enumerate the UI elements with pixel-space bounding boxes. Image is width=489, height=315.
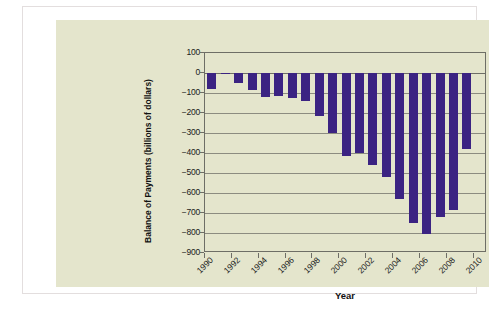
x-tick-label: 2002 [351, 255, 376, 280]
y-tick-label: −300 [160, 128, 200, 137]
x-axis-tick-labels: 1990199219941996199820002002200420062008… [204, 253, 486, 293]
x-tick-label: 1996 [270, 255, 295, 280]
bar-series [205, 53, 485, 251]
x-tick-label: 2004 [378, 255, 403, 280]
figure-border: Balance of Payments (billions of dollars… [22, 6, 477, 294]
y-tick-mark [199, 252, 204, 253]
bar [449, 73, 458, 210]
x-tick-label: 1992 [216, 255, 241, 280]
bar [261, 73, 270, 97]
y-tick-mark [199, 132, 204, 133]
y-tick-label: −100 [160, 88, 200, 97]
y-tick-label: 100 [160, 48, 200, 57]
y-tick-mark [199, 172, 204, 173]
bar [315, 73, 324, 116]
y-tick-label: −400 [160, 148, 200, 157]
bar [382, 73, 391, 177]
y-axis-title: Balance of Payments (billions of dollars… [143, 61, 153, 261]
bar [301, 73, 310, 101]
x-tick-label: 2008 [431, 255, 456, 280]
bar [462, 73, 471, 149]
y-tick-mark [199, 212, 204, 213]
y-tick-label: −700 [160, 208, 200, 217]
y-tick-mark [199, 152, 204, 153]
x-axis-title: Year [204, 290, 486, 301]
y-tick-mark [199, 92, 204, 93]
x-tick-label: 2000 [324, 255, 349, 280]
y-tick-label: −200 [160, 108, 200, 117]
y-tick-mark [199, 192, 204, 193]
bar [422, 73, 431, 234]
y-tick-label: −800 [160, 228, 200, 237]
x-tick-label: 1998 [297, 255, 322, 280]
y-tick-mark [199, 232, 204, 233]
y-tick-mark [199, 72, 204, 73]
bar [355, 73, 364, 153]
bar [395, 73, 404, 199]
y-tick-mark [199, 52, 204, 53]
bar [234, 73, 243, 83]
plot-area [204, 52, 486, 252]
bar [409, 73, 418, 223]
y-tick-label: −500 [160, 168, 200, 177]
y-axis-tick-labels: 1000−100−200−300−400−500−600−700−800−900 [156, 52, 200, 252]
bar [207, 73, 216, 89]
y-tick-mark [199, 112, 204, 113]
y-tick-label: 0 [160, 68, 200, 77]
bar [436, 73, 445, 217]
bar [342, 73, 351, 156]
y-tick-label: −900 [160, 248, 200, 257]
bar [274, 73, 283, 96]
chart-canvas: Balance of Payments (billions of dollars… [56, 20, 489, 287]
bar [328, 73, 337, 133]
bar [288, 73, 297, 98]
x-tick-label: 1990 [190, 255, 215, 280]
x-tick-label: 2010 [458, 255, 483, 280]
x-tick-label: 2006 [404, 255, 429, 280]
bar [368, 73, 377, 165]
bar [221, 73, 230, 74]
x-tick-label: 1994 [243, 255, 268, 280]
y-tick-label: −600 [160, 188, 200, 197]
bar [248, 73, 257, 90]
